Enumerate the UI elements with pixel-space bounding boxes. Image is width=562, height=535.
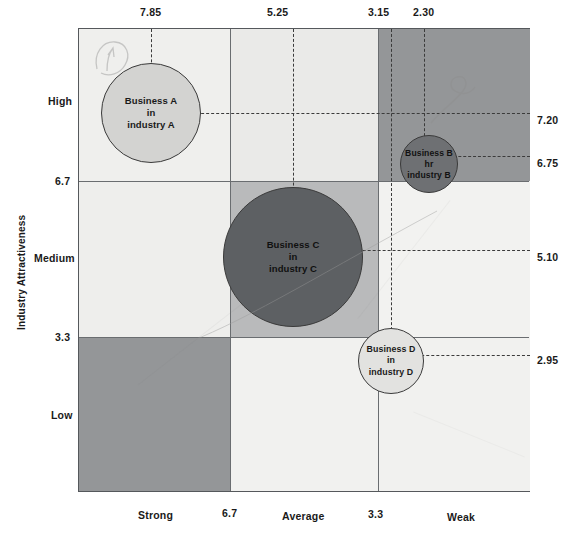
matrix-cell-medium-weak: [378, 181, 530, 337]
bubble-b-line-2: hr: [425, 159, 434, 170]
y-axis-tick-medium: Medium: [34, 252, 75, 264]
gridline-horizontal-3-3: [79, 337, 529, 338]
right-axis-tick-7-20: 7.20: [537, 114, 558, 126]
matrix-plot-area: Business A in industry A Business B hr i…: [78, 28, 530, 492]
top-axis-tick-0: 7.85: [140, 6, 161, 18]
bubble-d-line-1: Business D: [367, 344, 416, 355]
bubble-c-line-3: industry C: [269, 263, 317, 275]
x-axis-tick-3-3: 3.3: [368, 508, 383, 520]
bubble-c-line-1: Business C: [267, 239, 320, 251]
matrix-cell-low-average: [230, 337, 378, 491]
right-axis-tick-2-95: 2.95: [537, 354, 558, 366]
y-axis-tick-3-3: 3.3: [55, 331, 70, 343]
bubble-a-line-1: Business A: [125, 95, 177, 107]
y-axis-tick-high: High: [48, 95, 72, 107]
x-axis-tick-6-7: 6.7: [222, 507, 237, 519]
y-axis-title: Industry Attractiveness: [16, 215, 27, 330]
top-axis-tick-3: 2.30: [413, 6, 434, 18]
bubble-c-line-2: in: [289, 251, 298, 263]
bubble-a-line-2: in: [147, 107, 156, 119]
top-axis-tick-1: 5.25: [267, 6, 288, 18]
right-axis-tick-6-75: 6.75: [537, 157, 558, 169]
gridline-horizontal-6-7: [79, 181, 529, 182]
bubble-business-d[interactable]: Business D in industry D: [358, 328, 424, 394]
right-axis-tick-5-10: 5.10: [537, 251, 558, 263]
matrix-shade-overlay-high-average: [230, 29, 378, 181]
top-axis-tick-2: 3.15: [368, 6, 389, 18]
bubble-d-line-2: in: [387, 355, 395, 366]
ge-mckinsey-matrix-chart: 7.85 5.25 3.15 2.30 Industry Attractiven…: [0, 0, 562, 535]
x-axis-tick-average: Average: [282, 510, 324, 522]
bubble-a-line-3: industry A: [127, 119, 175, 131]
x-axis-tick-weak: Weak: [447, 511, 475, 523]
bubble-business-a[interactable]: Business A in industry A: [101, 63, 201, 163]
gridline-vertical-3-3: [378, 29, 379, 491]
bubble-business-c[interactable]: Business C in industry C: [223, 187, 363, 327]
x-axis-tick-strong: Strong: [138, 509, 173, 521]
y-axis-tick-6-7: 6.7: [55, 175, 70, 187]
bubble-b-line-3: industry B: [407, 170, 451, 181]
matrix-cell-medium-strong: [79, 181, 230, 337]
bubble-b-line-1: Business B: [405, 148, 453, 159]
bubble-d-line-3: industry D: [369, 367, 414, 378]
y-axis-tick-low: Low: [51, 409, 73, 421]
bubble-business-b[interactable]: Business B hr industry B: [400, 135, 458, 193]
matrix-cell-low-strong: [79, 337, 230, 491]
